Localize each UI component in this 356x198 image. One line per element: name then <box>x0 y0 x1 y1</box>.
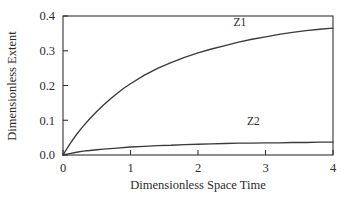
x-tick-label: 1 <box>127 161 133 175</box>
x-tick-label: 2 <box>195 161 201 175</box>
series-annotation-z1: Z1 <box>233 16 246 28</box>
chart-figure: 0.00.10.20.30.4 01234 Dimensionless Exte… <box>0 0 356 198</box>
series-annotation-z2: Z2 <box>247 115 260 127</box>
y-tick-label: 0.0 <box>39 148 55 162</box>
y-tick-label: 0.1 <box>39 114 55 128</box>
y-tick-label: 0.3 <box>39 44 55 58</box>
x-tick-label: 4 <box>330 161 337 175</box>
y-tick-label: 0.2 <box>39 79 55 93</box>
x-tick-label: 0 <box>60 161 66 175</box>
figure-background <box>0 0 356 198</box>
x-axis-title: Dimensionless Space Time <box>130 178 266 192</box>
y-tick-label: 0.4 <box>39 9 55 23</box>
y-axis-title: Dimensionless Extent <box>5 31 19 141</box>
x-tick-label: 3 <box>262 161 268 175</box>
chart-canvas: 0.00.10.20.30.4 01234 Dimensionless Exte… <box>0 0 356 198</box>
